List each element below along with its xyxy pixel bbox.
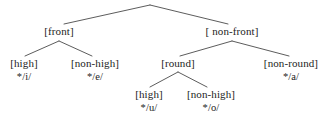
node-label-high-i: [high] — [10, 58, 37, 70]
branch-root-to-nonfront — [150, 5, 228, 24]
node-phoneme-high-i: */i/ — [10, 71, 37, 82]
branch-front-to-high-i — [25, 41, 59, 56]
node-label-nonfront: [ non-front] — [206, 26, 259, 38]
node-phoneme-nonhigh-e: */e/ — [71, 71, 119, 82]
branch-nonfront-to-nonround-a — [232, 41, 289, 56]
node-label-nonhigh-e: [non-high] — [71, 58, 119, 70]
node-label-nonhigh-o: [non-high] — [187, 89, 235, 101]
node-label-front: [front] — [44, 26, 73, 38]
node-label-nonround-a: [non-round] — [264, 58, 318, 70]
node-label-round: [round] — [161, 58, 195, 70]
tree-node-high-i: [high]*/i/ — [10, 58, 37, 82]
branch-round-to-high-u — [150, 72, 178, 87]
tree-node-nonhigh-e: [non-high]*/e/ — [71, 58, 119, 82]
branch-front-to-nonhigh-e — [59, 41, 92, 56]
node-phoneme-high-u: */u/ — [135, 102, 162, 113]
branch-nonfront-to-round — [180, 41, 232, 56]
tree-node-nonfront: [ non-front] — [206, 26, 259, 38]
node-label-high-u: [high] — [135, 89, 162, 101]
tree-node-nonround-a: [non-round]*/a/ — [264, 58, 318, 82]
node-phoneme-nonhigh-o: */o/ — [187, 102, 235, 113]
tree-node-high-u: [high]*/u/ — [135, 89, 162, 113]
branch-round-to-nonhigh-o — [178, 72, 207, 87]
vowel-feature-tree-diagram: [front][ non-front][high]*/i/[non-high]*… — [0, 0, 332, 123]
tree-node-nonhigh-o: [non-high]*/o/ — [187, 89, 235, 113]
tree-node-front: [front] — [44, 26, 73, 38]
branch-root-to-front — [64, 5, 150, 24]
tree-node-round: [round] — [161, 58, 195, 70]
node-phoneme-nonround-a: */a/ — [264, 71, 318, 82]
